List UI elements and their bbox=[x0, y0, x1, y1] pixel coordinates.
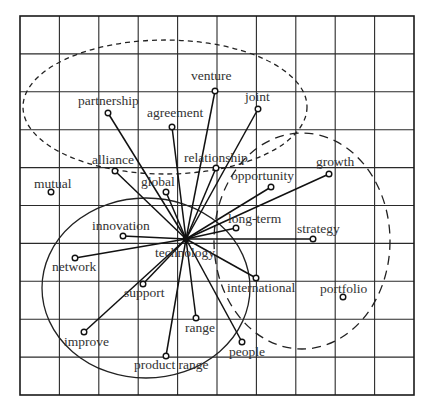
label-network: network bbox=[52, 259, 96, 274]
label-international: international bbox=[227, 280, 295, 295]
node-venture[interactable] bbox=[212, 88, 218, 94]
word-association-diagram: technologyventurejointpartnershipagreeme… bbox=[0, 0, 434, 414]
edge-technology-relationship bbox=[186, 168, 216, 239]
label-innovation: innovation bbox=[92, 218, 150, 233]
hub-node-technology[interactable] bbox=[183, 236, 190, 243]
node-joint[interactable] bbox=[255, 106, 261, 112]
label-global: global bbox=[141, 174, 175, 189]
node-alliance[interactable] bbox=[112, 168, 118, 174]
label-joint: joint bbox=[244, 89, 270, 104]
node-long-term[interactable] bbox=[233, 225, 239, 231]
label-partnership: partnership bbox=[78, 93, 139, 108]
labels: technologyventurejointpartnershipagreeme… bbox=[34, 68, 367, 372]
node-strategy[interactable] bbox=[310, 236, 316, 242]
growth-cluster bbox=[214, 133, 390, 349]
label-venture: venture bbox=[191, 68, 231, 83]
label-improve: improve bbox=[64, 334, 109, 349]
label-relationship: relationship bbox=[184, 150, 248, 165]
edge-technology-innovation bbox=[123, 236, 186, 239]
label-opportunity: opportunity bbox=[231, 168, 294, 183]
label-agreement: agreement bbox=[147, 105, 203, 120]
label-mutual: mutual bbox=[34, 176, 72, 191]
label-strategy: strategy bbox=[297, 221, 340, 236]
label-people: people bbox=[229, 344, 265, 359]
label-alliance: alliance bbox=[92, 152, 134, 167]
label-product-range: product range bbox=[134, 357, 209, 372]
node-global[interactable] bbox=[163, 189, 169, 195]
label-portfolio: portfolio bbox=[320, 281, 367, 296]
node-growth[interactable] bbox=[326, 171, 332, 177]
node-partnership[interactable] bbox=[105, 110, 111, 116]
label-support: support bbox=[124, 285, 165, 300]
node-relationship[interactable] bbox=[213, 165, 219, 171]
label-growth: growth bbox=[316, 154, 354, 169]
node-agreement[interactable] bbox=[169, 124, 175, 130]
label-long-term: long-term bbox=[228, 211, 282, 226]
label-technology: technology bbox=[155, 245, 215, 260]
label-range: range bbox=[185, 320, 215, 335]
node-innovation[interactable] bbox=[120, 233, 126, 239]
node-opportunity[interactable] bbox=[268, 184, 274, 190]
